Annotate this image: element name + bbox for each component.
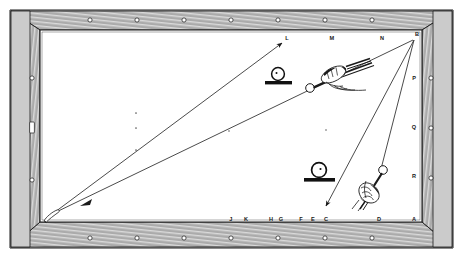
stud-circle: [30, 178, 34, 182]
label-H: H: [269, 216, 273, 222]
label-P: P: [412, 75, 416, 81]
label-J: J: [229, 216, 232, 222]
stud-circle: [229, 236, 233, 240]
label-K: K: [244, 216, 248, 222]
label-A: A: [412, 216, 416, 222]
stud-circle: [429, 126, 433, 130]
label-F: F: [299, 216, 303, 222]
table-frame: [10, 10, 453, 248]
diagram-canvas: L M N B J K H G F E C D A P Q R: [0, 0, 463, 259]
stud-circle: [276, 236, 280, 240]
label-M: M: [330, 35, 335, 41]
stud-circle: [229, 18, 233, 22]
rail-bottom: [11, 222, 452, 247]
label-N: N: [380, 35, 384, 41]
stand-base: [265, 81, 292, 84]
stud-circle: [323, 18, 327, 22]
stud-circle: [182, 18, 186, 22]
label-G: G: [279, 216, 284, 222]
label-Q: Q: [412, 124, 417, 130]
stud-circle: [370, 18, 374, 22]
billiard-diagram-figure: L M N B J K H G F E C D A P Q R: [0, 0, 463, 259]
table-spot: [135, 127, 137, 129]
table-spot: [135, 149, 137, 151]
label-E: E: [311, 216, 315, 222]
corner-wedge-right: [433, 11, 452, 247]
stud-circle: [30, 76, 34, 80]
stud-circle: [276, 18, 280, 22]
stud-circle: [429, 176, 433, 180]
stud-circle: [88, 236, 92, 240]
stud-circle: [429, 76, 433, 80]
stand-base: [304, 178, 335, 182]
table-spot: [135, 112, 137, 114]
stud-circle: [182, 236, 186, 240]
stud-circle: [370, 236, 374, 240]
stud-circle: [88, 18, 92, 22]
stud-circle: [135, 18, 139, 22]
label-C: C: [324, 216, 328, 222]
corner-wedge-left: [11, 11, 30, 247]
cue-ball-upper: [306, 84, 315, 93]
table-spot: [228, 130, 230, 132]
label-L: L: [285, 35, 289, 41]
label-B: B: [415, 31, 419, 37]
stud-circle: [135, 236, 139, 240]
side-pocket-plate: [30, 122, 35, 133]
table-spot: [325, 129, 327, 131]
stud-circle: [323, 236, 327, 240]
label-D: D: [377, 216, 381, 222]
cue-ball-lower: [379, 166, 388, 175]
label-R: R: [412, 173, 416, 179]
